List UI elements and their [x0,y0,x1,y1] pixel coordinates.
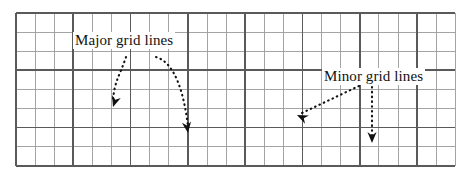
grid-lines-figure: Major grid lines Minor grid lines [0,0,470,177]
annotation-canvas [0,0,470,177]
label-major-grid-lines: Major grid lines [73,32,175,49]
minor-arrow-left-shaft [302,86,359,113]
minor-arrow-down-head [367,132,376,143]
major-arrow-left-head [109,95,121,108]
major-arrow-right-shaft [156,57,188,126]
major-arrow-left-shaft [113,57,126,101]
label-minor-grid-lines: Minor grid lines [322,68,425,85]
